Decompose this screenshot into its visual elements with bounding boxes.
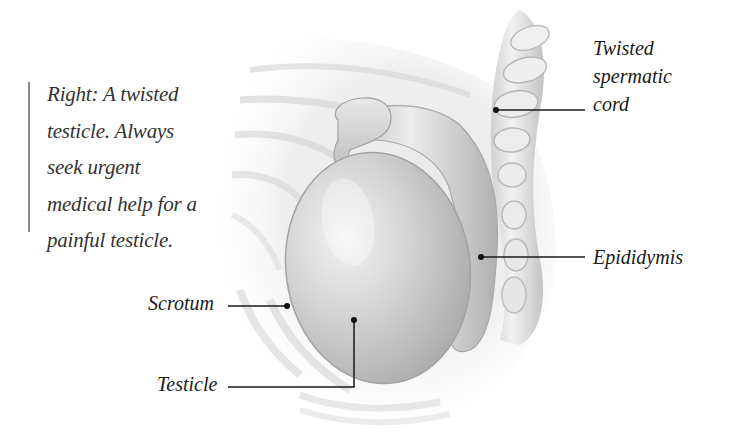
label-scrotum: Scrotum <box>148 289 214 317</box>
label-epididymis: Epididymis <box>593 243 683 271</box>
label-line: cord <box>593 90 672 118</box>
label-twisted-spermatic-cord: Twisted spermatic cord <box>593 34 672 118</box>
label-line: spermatic <box>593 62 672 90</box>
label-testicle: Testicle <box>157 370 217 398</box>
label-line: Twisted <box>593 34 672 62</box>
